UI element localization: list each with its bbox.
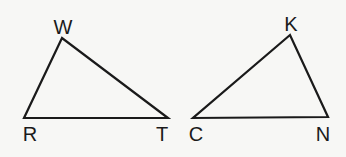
diagram-canvas: W R T K C N <box>0 0 346 157</box>
vertex-label-C: C <box>189 123 203 145</box>
triangle-WRT <box>24 38 168 118</box>
vertex-label-R: R <box>23 123 37 145</box>
vertex-label-T: T <box>156 123 168 145</box>
triangle-KCN <box>193 35 328 118</box>
vertex-label-N: N <box>316 123 330 145</box>
vertex-label-W: W <box>54 16 73 38</box>
vertex-label-K: K <box>284 13 298 35</box>
